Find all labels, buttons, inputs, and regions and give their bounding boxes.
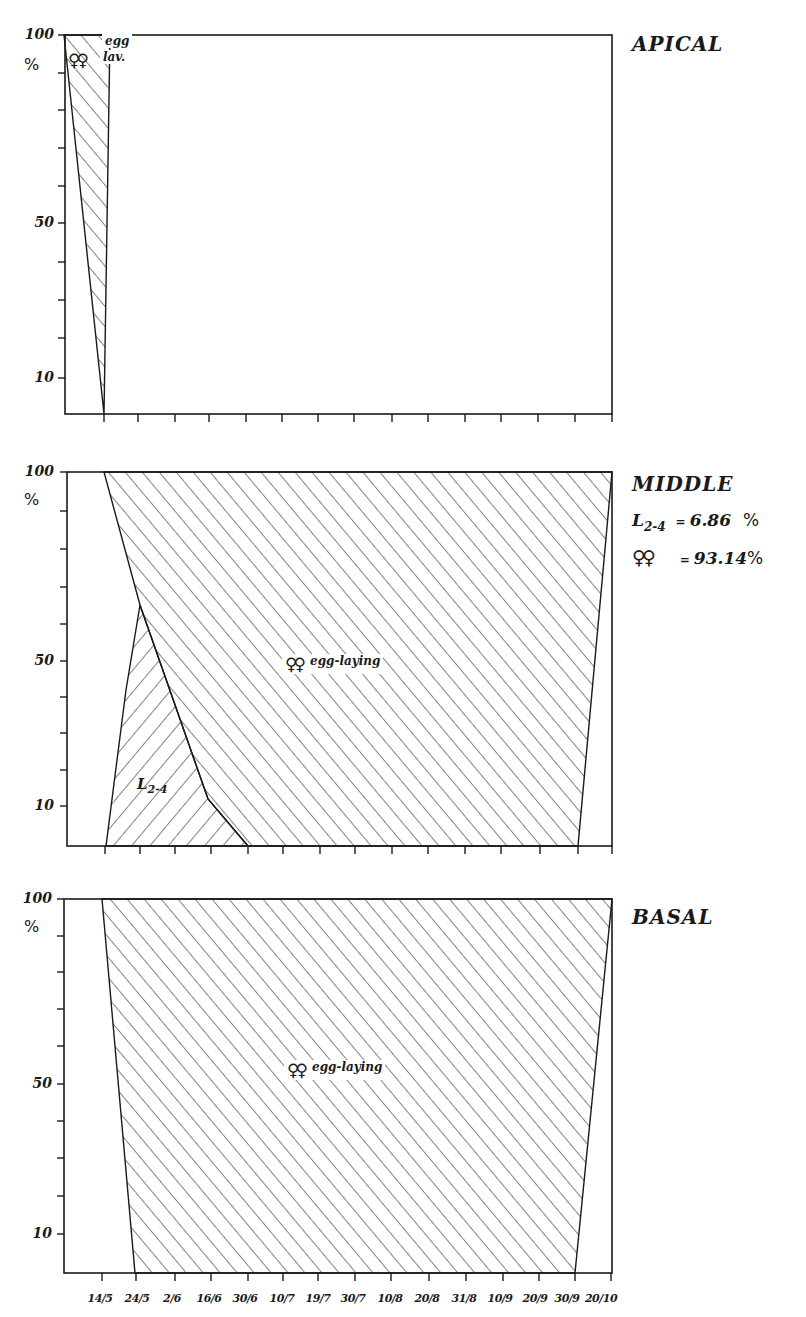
basal-y-ticks (57, 899, 64, 1234)
basal-panel (57, 899, 612, 1281)
xtick-label: 20/10 (585, 1292, 617, 1305)
basal-y-unit: % (24, 917, 39, 936)
apical-frame (65, 35, 612, 414)
middle-egg-laying-label: ♀♀ egg-laying (282, 654, 383, 674)
middle-ytick-10: 10 (14, 797, 54, 813)
egg-laying-text: egg-laying (312, 1060, 382, 1074)
xtick-label: 20/9 (523, 1292, 548, 1305)
middle-y-unit: % (24, 490, 39, 509)
xtick-label: 31/8 (452, 1292, 477, 1305)
larvae-label: L (632, 510, 644, 530)
larvae-region-sub: 2-4 (148, 783, 168, 796)
apical-panel (58, 35, 612, 422)
apical-egg-laying-area (64, 35, 110, 414)
apical-label-egg: egg (102, 34, 132, 48)
apical-ytick-50: 50 (14, 214, 54, 230)
female-symbol-icon: ♀♀ (632, 546, 652, 568)
xtick-label: 30/9 (555, 1292, 580, 1305)
xtick-label: 10/8 (378, 1292, 403, 1305)
larvae-eq: = (676, 515, 686, 529)
basal-ytick-10: 10 (12, 1225, 52, 1241)
xtick-label: 2/6 (163, 1292, 181, 1305)
xtick-label: 10/7 (270, 1292, 295, 1305)
larvae-pct: % (743, 510, 759, 530)
basal-egg-laying-label: ♀♀ egg-laying (284, 1060, 385, 1080)
apical-y-unit: % (24, 55, 39, 74)
female-eq: = (680, 553, 690, 567)
female-symbol-icon: ♀♀ (68, 50, 85, 70)
female-symbol-icon: ♀♀ (285, 654, 302, 674)
middle-title: MIDDLE (632, 472, 734, 496)
basal-ytick-50: 50 (12, 1075, 52, 1091)
larvae-value: 6.86 (690, 510, 731, 530)
middle-larvae-region-label: L2-4 (134, 775, 170, 793)
xtick-label: 30/6 (233, 1292, 258, 1305)
middle-female-stat: ♀♀ =93.14% (632, 546, 763, 568)
xtick-label: 24/5 (125, 1292, 150, 1305)
larvae-subscript: 2-4 (644, 520, 666, 534)
xtick-label: 20/8 (415, 1292, 440, 1305)
basal-ytick-100: 100 (12, 890, 52, 906)
female-value: 93.14 (694, 548, 747, 568)
xtick-label: 10/9 (488, 1292, 513, 1305)
apical-ytick-10: 10 (14, 369, 54, 385)
apical-label-lay: lav. (100, 50, 128, 64)
xtick-label: 19/7 (306, 1292, 331, 1305)
basal-x-ticks (102, 1273, 611, 1281)
xtick-label: 16/6 (197, 1292, 222, 1305)
xtick-label: 14/5 (88, 1292, 113, 1305)
chart-canvas (0, 0, 806, 1317)
middle-larvae-stat: L2-4 =6.86 % (632, 510, 759, 530)
middle-ytick-50: 50 (14, 652, 54, 668)
basal-egg-laying-area (102, 899, 612, 1273)
basal-title: BASAL (632, 905, 713, 929)
female-pct: % (747, 548, 763, 568)
female-symbol-icon: ♀♀ (287, 1060, 304, 1080)
larvae-region-l: L (137, 775, 148, 793)
apical-y-ticks (58, 35, 65, 378)
middle-y-ticks (60, 472, 67, 806)
apical-x-ticks (104, 414, 612, 422)
xtick-label: 30/7 (341, 1292, 366, 1305)
middle-ytick-100: 100 (14, 463, 54, 479)
middle-x-ticks (105, 846, 612, 854)
apical-title: APICAL (632, 32, 723, 56)
egg-laying-text: egg-laying (310, 654, 380, 668)
figure: 100 % 50 10 APICAL ♀♀ egg lav. 100 % 50 … (0, 0, 806, 1317)
apical-ytick-100: 100 (14, 26, 54, 42)
